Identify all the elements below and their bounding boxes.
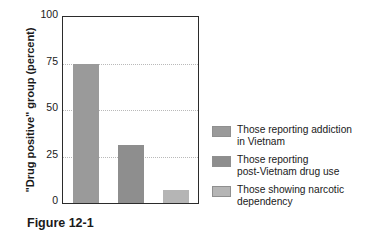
bar-1 bbox=[73, 64, 99, 204]
y-tick-label-25: 25 bbox=[30, 148, 58, 159]
legend-swatch-2 bbox=[212, 156, 231, 167]
y-tick-label-100: 100 bbox=[30, 9, 58, 20]
bar-2 bbox=[118, 145, 144, 203]
legend-label-1: Those reporting addiction in Vietnam bbox=[237, 124, 352, 147]
y-tick-label-50: 50 bbox=[30, 102, 58, 113]
chart-legend: Those reporting addiction in VietnamThos… bbox=[212, 124, 372, 215]
legend-swatch-1 bbox=[212, 126, 231, 137]
legend-label-3: Those showing narcotic dependency bbox=[237, 184, 344, 207]
figure-caption: Figure 12-1 bbox=[27, 216, 94, 230]
bars-layer bbox=[63, 17, 198, 203]
legend-item-1: Those reporting addiction in Vietnam bbox=[212, 124, 372, 147]
bar-3 bbox=[163, 190, 189, 203]
plot-area bbox=[62, 16, 199, 204]
legend-item-3: Those showing narcotic dependency bbox=[212, 184, 372, 207]
y-tick-label-75: 75 bbox=[30, 55, 58, 66]
legend-label-2: Those reporting post-Vietnam drug use bbox=[237, 154, 339, 177]
legend-item-2: Those reporting post-Vietnam drug use bbox=[212, 154, 372, 177]
legend-swatch-3 bbox=[212, 186, 231, 197]
figure-bar-chart: "Drug positive" group (percent) 10075502… bbox=[0, 0, 372, 230]
y-axis-tick-labels: 1007550250 bbox=[30, 12, 58, 204]
y-tick-label-0: 0 bbox=[30, 195, 58, 206]
